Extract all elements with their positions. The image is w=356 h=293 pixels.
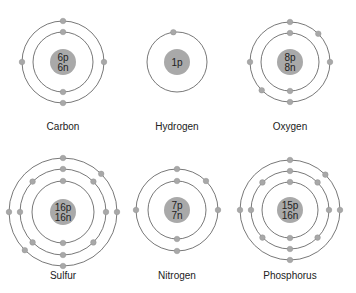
proton-count: 1p — [171, 57, 183, 68]
electron — [287, 30, 293, 36]
neutron-count: 8n — [284, 62, 295, 73]
electron — [287, 157, 293, 163]
electron — [203, 178, 209, 184]
electron — [91, 240, 97, 246]
electron — [103, 209, 109, 215]
atom-label-nitrogen: Nitrogen — [122, 270, 232, 281]
electron — [30, 179, 36, 185]
electron — [287, 88, 293, 94]
electron — [247, 59, 253, 65]
electron — [287, 179, 293, 185]
electron — [174, 248, 180, 254]
electron — [60, 166, 66, 172]
atom-label-oxygen: Oxygen — [235, 121, 345, 132]
electron — [248, 207, 254, 213]
electron — [323, 172, 329, 178]
electron — [171, 29, 177, 35]
electron — [60, 100, 66, 106]
electron — [6, 209, 12, 215]
atom-oxygen: 8p8n — [247, 19, 333, 105]
electron — [60, 89, 66, 95]
electron — [19, 59, 25, 65]
atom-label-carbon: Carbon — [8, 121, 118, 132]
electron — [287, 235, 293, 241]
atom-hydrogen: 1p — [147, 29, 207, 92]
atom-label-sulfur: Sulfur — [8, 270, 118, 281]
electron — [315, 235, 321, 241]
electron — [174, 166, 180, 172]
electron — [30, 240, 36, 246]
electron — [17, 209, 23, 215]
neutron-count: 7n — [171, 210, 182, 221]
electron — [60, 178, 66, 184]
atom-phosphorus: 15p16n — [237, 157, 343, 263]
atom-label-hydrogen: Hydrogen — [122, 121, 232, 132]
electron — [60, 240, 66, 246]
electron — [60, 263, 66, 269]
electron — [133, 207, 139, 213]
electron — [174, 178, 180, 184]
neutron-count: 16n — [55, 212, 72, 223]
neutron-count: 6n — [57, 62, 68, 73]
electron — [337, 207, 343, 213]
electron — [237, 207, 243, 213]
electron — [326, 207, 332, 213]
electron — [91, 179, 97, 185]
atom-diagram: 6p6n1p8p8n16p16n7p7n15p16n — [0, 0, 356, 293]
electron — [60, 18, 66, 24]
electron — [327, 59, 333, 65]
atom-label-phosphorus: Phosphorus — [235, 270, 345, 281]
electron — [315, 31, 321, 37]
electron — [287, 19, 293, 25]
neutron-count: 16n — [282, 210, 299, 221]
electron — [287, 168, 293, 174]
electron — [287, 99, 293, 105]
electron — [101, 59, 107, 65]
electron — [287, 257, 293, 263]
electron — [98, 171, 104, 177]
electron — [60, 155, 66, 161]
electron — [60, 29, 66, 35]
electron — [315, 180, 321, 186]
electron — [259, 87, 265, 93]
electron — [260, 235, 266, 241]
electron — [60, 252, 66, 258]
electron — [114, 209, 120, 215]
atom-carbon: 6p6n — [19, 18, 107, 106]
electron — [174, 236, 180, 242]
electron — [260, 180, 266, 186]
atom-nitrogen: 7p7n — [133, 166, 221, 254]
atom-sulfur: 16p16n — [6, 155, 120, 269]
electron — [287, 246, 293, 252]
electron — [215, 207, 221, 213]
electron — [22, 247, 28, 253]
